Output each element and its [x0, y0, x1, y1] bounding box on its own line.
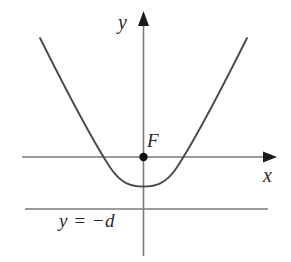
x-axis-arrowhead-icon — [263, 152, 277, 163]
y-axis-arrowhead-icon — [138, 11, 149, 26]
x-axis-label: x — [263, 165, 272, 185]
directrix-label: y = −d — [59, 211, 115, 230]
parabola-figure: y x F y = −d — [0, 0, 291, 262]
y-axis-label: y — [118, 12, 127, 32]
focus-point-marker — [139, 153, 147, 161]
parabola-plot-canvas — [0, 0, 291, 262]
x-axis — [22, 152, 277, 163]
focus-label: F — [147, 131, 159, 150]
